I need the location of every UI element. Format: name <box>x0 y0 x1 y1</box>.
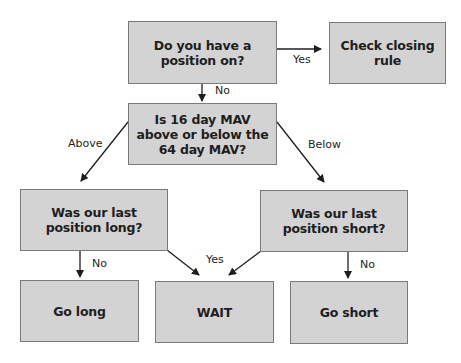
node-text-line: Was our last <box>291 206 376 221</box>
node-text-line: 64 day MAV? <box>159 142 246 157</box>
node-go-long: Go long <box>20 280 139 342</box>
node-text-line: Is 16 day MAV <box>154 112 250 127</box>
node-text-line: Check closing rule <box>330 38 445 68</box>
node-text-line: Do you have a <box>154 38 251 53</box>
node-last-long-question: Was our lastposition long? <box>20 189 168 251</box>
node-text-line: WAIT <box>197 305 232 320</box>
node-text-line: Was our last <box>51 205 136 220</box>
arrow-above <box>81 122 128 181</box>
arrow-below <box>277 122 324 182</box>
node-position-question: Do you have aposition on? <box>128 21 277 84</box>
edge-label-below: Below <box>308 138 341 151</box>
node-go-short: Go short <box>290 281 408 344</box>
edge-label-no-top: No <box>215 84 230 97</box>
node-text-line: position short? <box>283 221 386 236</box>
node-text-line: Go long <box>53 304 106 319</box>
node-mav-question: Is 16 day MAVabove or below the64 day MA… <box>128 103 277 165</box>
node-check-closing-rule: Check closing rule <box>329 22 446 84</box>
edge-label-above: Above <box>68 137 103 150</box>
node-last-short-question: Was our lastposition short? <box>260 190 408 252</box>
node-text-line: above or below the <box>136 127 268 142</box>
edge-label-no-right: No <box>360 258 375 271</box>
arrow-yes-wait-right <box>229 251 261 275</box>
edge-label-yes-top: Yes <box>293 53 311 66</box>
node-text-line: Go short <box>320 305 379 320</box>
node-text-line: position long? <box>46 220 143 235</box>
edge-label-yes-mid: Yes <box>206 253 224 266</box>
node-text-line: position on? <box>161 53 245 68</box>
arrow-yes-wait-left <box>167 250 199 275</box>
node-wait: WAIT <box>155 281 274 343</box>
edge-label-no-left: No <box>92 257 107 270</box>
